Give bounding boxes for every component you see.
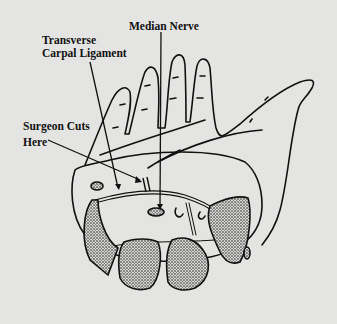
surgeon-cut-line2: Here [23,134,90,150]
surgeon-cut-line1: Surgeon Cuts [23,118,90,134]
ligament-label-line2: Carpal Ligament [42,47,127,60]
bone [84,200,118,275]
median-nerve [148,208,164,216]
palm-crease [100,120,205,155]
surgeon-cut-label: Surgeon Cuts Here [23,118,90,150]
bone [167,238,209,290]
palm-crease [158,130,262,162]
median-nerve-pointer [160,32,161,208]
median-nerve-label: Median Nerve [129,20,199,33]
ligament-label: Transverse Carpal Ligament [42,34,127,60]
ligament-label-line1: Transverse [42,34,127,47]
bone [119,239,161,290]
